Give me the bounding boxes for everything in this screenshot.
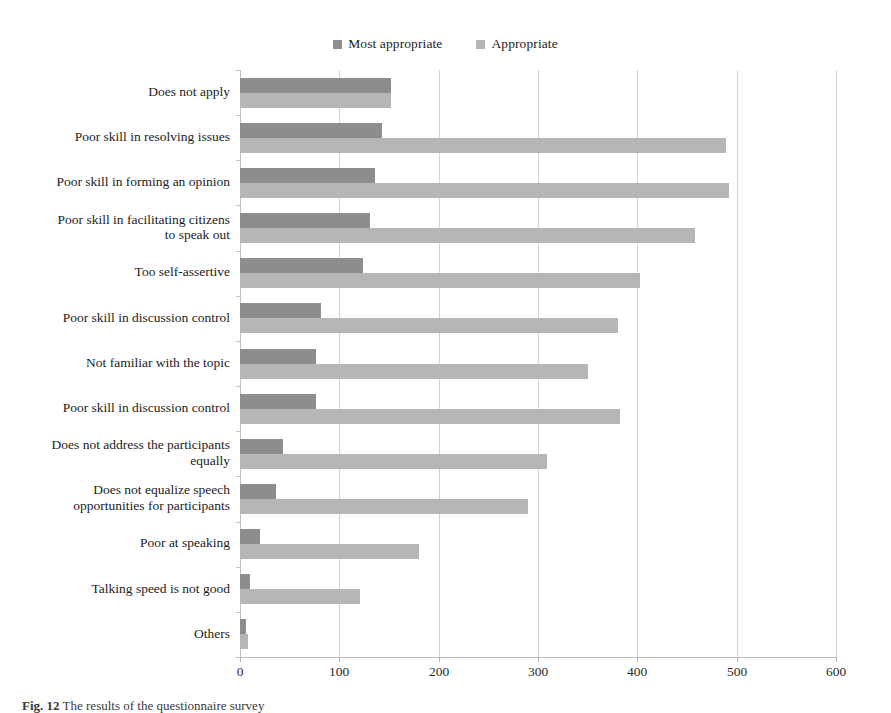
gridline-600 [836,70,837,657]
x-tick-label-500: 500 [727,664,747,680]
figure-container: Most appropriate Appropriate Does not ap… [0,0,891,713]
bar-appropriate [240,454,547,469]
bar-appropriate [240,634,248,649]
plot-area [240,70,836,657]
x-tick-mark-200 [439,657,440,662]
chart-legend: Most appropriate Appropriate [0,36,891,52]
bar-group [240,439,836,469]
bar-group [240,78,836,108]
y-tick-mark-13 [236,657,241,658]
y-axis-label-6: Not familiar with the topic [18,355,230,371]
legend-swatch-most-appropriate [333,40,342,49]
y-axis-label-3: Poor skill in facilitating citizens to s… [18,212,230,243]
y-tick-mark-0 [236,70,241,71]
bar-group [240,529,836,559]
bar-group [240,168,836,198]
bar-appropriate [240,318,618,333]
y-axis-label-11: Talking speed is not good [18,581,230,597]
legend-label-most-appropriate: Most appropriate [348,36,442,52]
x-tick-mark-600 [836,657,837,662]
bar-most-appropriate [240,394,316,409]
y-axis-label-12: Others [18,626,230,642]
bar-group [240,349,836,379]
y-tick-mark-6 [236,341,241,342]
bar-appropriate [240,183,729,198]
bar-most-appropriate [240,619,246,634]
y-axis-label-8: Does not address the participants equall… [18,437,230,468]
bar-most-appropriate [240,213,370,228]
y-tick-mark-4 [236,251,241,252]
bar-group [240,484,836,514]
bar-group [240,394,836,424]
x-axis-tick-labels: 0100200300400500600 [0,664,891,686]
bar-most-appropriate [240,484,276,499]
bar-group [240,574,836,604]
y-axis-label-10: Poor at speaking [18,535,230,551]
figure-number: Fig. 12 [22,698,60,713]
bar-appropriate [240,589,360,604]
y-tick-mark-3 [236,205,241,206]
y-axis-label-9: Does not equalize speech opportunities f… [18,482,230,513]
bar-most-appropriate [240,123,382,138]
y-tick-mark-12 [236,612,241,613]
legend-label-appropriate: Appropriate [491,36,557,52]
bar-most-appropriate [240,439,283,454]
bar-appropriate [240,499,528,514]
bar-group [240,303,836,333]
bar-appropriate [240,138,726,153]
x-tick-label-0: 0 [237,664,244,680]
y-tick-mark-2 [236,160,241,161]
bar-most-appropriate [240,168,375,183]
bar-appropriate [240,228,695,243]
y-tick-mark-8 [236,431,241,432]
bar-group [240,619,836,649]
bar-group [240,258,836,288]
y-tick-mark-9 [236,476,241,477]
y-axis-label-5: Poor skill in discussion control [18,310,230,326]
bar-most-appropriate [240,303,321,318]
bar-most-appropriate [240,349,316,364]
y-tick-mark-10 [236,522,241,523]
y-tick-mark-7 [236,386,241,387]
y-axis-label-0: Does not apply [18,84,230,100]
y-axis-label-1: Poor skill in resolving issues [18,129,230,145]
x-tick-mark-300 [538,657,539,662]
y-axis-label-2: Poor skill in forming an opinion [18,174,230,190]
bar-appropriate [240,273,640,288]
bar-appropriate [240,93,391,108]
bar-most-appropriate [240,258,363,273]
legend-swatch-appropriate [476,40,485,49]
x-tick-mark-100 [339,657,340,662]
bar-appropriate [240,364,588,379]
x-tick-label-100: 100 [329,664,349,680]
x-tick-label-200: 200 [429,664,449,680]
y-axis-label-7: Poor skill in discussion control [18,400,230,416]
bar-most-appropriate [240,78,391,93]
x-tick-mark-400 [637,657,638,662]
bar-group [240,213,836,243]
legend-item-appropriate: Appropriate [476,36,557,52]
y-tick-mark-11 [236,567,241,568]
bar-appropriate [240,409,620,424]
bar-most-appropriate [240,574,250,589]
x-tick-label-400: 400 [627,664,647,680]
y-axis-category-labels: Does not applyPoor skill in resolving is… [18,70,230,657]
y-tick-mark-5 [236,296,241,297]
figure-caption: Fig. 12 The results of the questionnaire… [22,698,872,713]
bar-group [240,123,836,153]
bar-most-appropriate [240,529,260,544]
y-tick-mark-1 [236,115,241,116]
figure-caption-text: The results of the questionnaire survey [63,698,265,713]
bar-appropriate [240,544,419,559]
x-tick-label-600: 600 [826,664,846,680]
y-axis-label-4: Too self-assertive [18,264,230,280]
x-tick-label-300: 300 [528,664,548,680]
x-tick-mark-500 [737,657,738,662]
legend-item-most-appropriate: Most appropriate [333,36,442,52]
